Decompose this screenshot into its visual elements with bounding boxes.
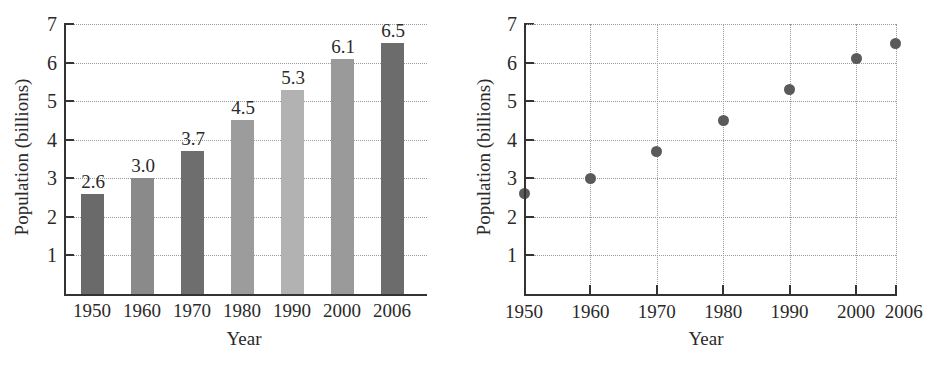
data-point [651, 146, 662, 157]
x-axis-label: Year [204, 328, 284, 350]
x-tick-label: 2006 [874, 302, 934, 322]
x-axis [524, 294, 897, 296]
y-axis [524, 23, 526, 295]
gridline [524, 24, 896, 25]
y-tick-label: 1 [37, 245, 57, 265]
x-tick-label: 1950 [494, 302, 554, 322]
y-tick-label: 6 [37, 53, 57, 73]
y-tick-label: 2 [37, 207, 57, 227]
gridline [74, 63, 427, 64]
y-axis [64, 23, 66, 295]
data-point [718, 115, 729, 126]
y-tick-label: 4 [497, 130, 517, 150]
bar-2006 [381, 43, 404, 294]
gridline [723, 24, 724, 284]
x-tick-label: 1970 [627, 302, 687, 322]
plot-area: 12345671950196019701980199020002006 [460, 0, 934, 320]
gridline [534, 101, 896, 102]
bar-1980 [231, 120, 254, 294]
y-tick-label: 4 [37, 130, 57, 150]
bar-1990 [281, 90, 304, 294]
bar-1970 [181, 151, 204, 294]
bar-value-label: 6.1 [318, 37, 368, 57]
data-point [585, 173, 596, 184]
gridline [896, 24, 897, 284]
bar-value-label: 6.5 [368, 21, 418, 41]
bar-value-label: 5.3 [268, 68, 318, 88]
y-tick-label: 5 [497, 91, 517, 111]
data-point [851, 53, 862, 64]
y-tick-label: 3 [497, 168, 517, 188]
x-tick-label: 2006 [362, 301, 422, 321]
bar-1950 [81, 194, 104, 294]
y-tick-label: 7 [497, 14, 517, 34]
x-axis [64, 294, 427, 296]
x-tick-label: 1980 [693, 302, 753, 322]
gridline [534, 217, 896, 218]
x-axis-label: Year [666, 328, 746, 350]
bar-value-label: 3.0 [118, 156, 168, 176]
y-tick-label: 6 [497, 53, 517, 73]
bar-value-label: 2.6 [68, 172, 118, 192]
x-tick-label: 1960 [560, 302, 620, 322]
gridline [534, 140, 896, 141]
plot-area: 12345672.619503.019603.719704.519805.319… [0, 0, 460, 320]
scatter-chart: Population (billions) 123456719501960197… [460, 0, 934, 365]
gridline [790, 24, 791, 284]
data-point [784, 84, 795, 95]
y-tick-label: 1 [497, 245, 517, 265]
bar-chart: Population (billions) 12345672.619503.01… [0, 0, 460, 365]
gridline [534, 63, 896, 64]
bar-value-label: 3.7 [168, 129, 218, 149]
data-point [890, 38, 901, 49]
gridline [590, 24, 591, 284]
bar-1960 [131, 178, 154, 294]
y-tick-label: 7 [37, 14, 57, 34]
y-tick-label: 5 [37, 91, 57, 111]
bar-value-label: 4.5 [218, 98, 268, 118]
gridline [534, 255, 896, 256]
y-tick-label: 3 [37, 168, 57, 188]
x-tick-label: 1990 [760, 302, 820, 322]
bar-2000 [331, 59, 354, 294]
y-tick-label: 2 [497, 207, 517, 227]
